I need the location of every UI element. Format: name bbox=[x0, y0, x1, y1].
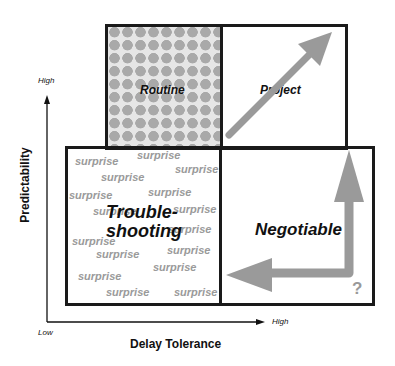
negotiable-arrows-layer bbox=[0, 0, 395, 366]
up-arrowhead-icon bbox=[334, 150, 364, 202]
negotiable-label: Negotiable bbox=[255, 220, 342, 240]
question-mark-icon: ? bbox=[352, 279, 362, 299]
left-arrowhead-icon bbox=[226, 258, 272, 292]
